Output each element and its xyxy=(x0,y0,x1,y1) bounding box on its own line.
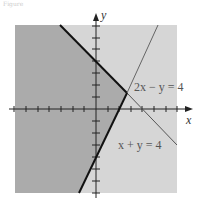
y-axis-arrow-icon xyxy=(93,13,99,21)
x-axis-label: x xyxy=(185,113,192,127)
x-axis-arrow-icon xyxy=(185,106,193,112)
equation-label-x-plus-y: x + y = 4 xyxy=(118,138,162,152)
y-axis-label: y xyxy=(100,8,107,22)
inequality-graph: y x 2x − y = 4 x + y = 4 xyxy=(0,0,204,208)
equation-label-2x-minus-y: 2x − y = 4 xyxy=(134,80,184,94)
